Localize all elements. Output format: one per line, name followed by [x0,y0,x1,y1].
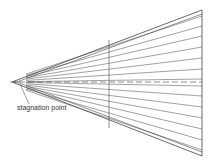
stagnation-point-label: stagnation point [17,104,66,111]
streamline [26,90,202,150]
flow-diagram [0,0,214,166]
streamline [26,86,202,118]
streamline [26,69,202,80]
streamline [26,36,202,76]
streamline [26,89,202,140]
streamline [26,58,202,79]
streamline [26,47,202,78]
streamline [26,79,202,82]
streamline [26,26,202,75]
streamline [26,16,202,74]
